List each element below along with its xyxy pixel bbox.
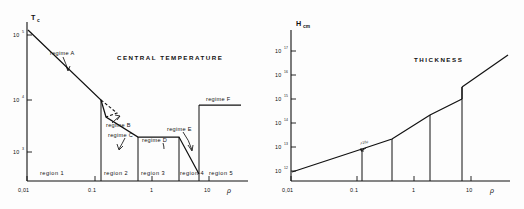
regime-label-a: regime A bbox=[50, 50, 74, 56]
y-tick-exponent-1e12: 12 bbox=[284, 166, 288, 170]
x-tick-label-0.1: 0.1 bbox=[350, 187, 358, 193]
region-label-5: region 5 bbox=[209, 170, 233, 176]
y-tick-label-1e12: 10 bbox=[275, 168, 281, 174]
thickness-annotation: ↗2δμ bbox=[359, 139, 369, 146]
y-tick-label-1e4: 10 bbox=[13, 97, 19, 103]
panel-thickness: H cm 10 17 10 16 10 15 10 14 10 13 10 12… bbox=[262, 0, 524, 209]
region-label-3: region 3 bbox=[141, 170, 165, 176]
regime-d-pointer bbox=[163, 143, 164, 149]
x-tick-label-0.01: 0,01 bbox=[282, 187, 293, 193]
y-axis-name: H bbox=[296, 19, 301, 28]
y-tick-label-1e13: 10 bbox=[275, 144, 281, 150]
y-axis-subscript: cm bbox=[303, 24, 310, 29]
x-tick-label-0.01: 0,01 bbox=[18, 187, 29, 193]
regime-label-e: regime E bbox=[167, 126, 192, 132]
x-tick-label-10: 10 bbox=[466, 187, 472, 193]
y-tick-exponent-1e13: 13 bbox=[284, 142, 288, 146]
y-tick-exponent-1e15: 15 bbox=[284, 94, 288, 98]
y-tick-label-1e16: 10 bbox=[275, 72, 281, 78]
y-tick-exponent-1e17: 17 bbox=[284, 46, 288, 50]
region-label-4: region 4 bbox=[180, 170, 204, 176]
thickness-upper-branch bbox=[462, 55, 508, 87]
regime-label-b: regime B bbox=[106, 122, 131, 128]
y-tick-exponent-1e5: 5 bbox=[22, 30, 24, 34]
x-tick-label-0.1: 0.1 bbox=[88, 187, 96, 193]
panel-central-temperature: T c 10 5 10 4 10 3 0,01 0.1 1 10 ρ CENTR… bbox=[0, 0, 262, 209]
y-tick-label-1e17: 10 bbox=[275, 48, 281, 54]
x-tick-label-1: 1 bbox=[150, 187, 153, 193]
figure-root: T c 10 5 10 4 10 3 0,01 0.1 1 10 ρ CENTR… bbox=[0, 0, 524, 209]
y-tick-label-1e3: 10 bbox=[13, 149, 19, 155]
region-label-1: region 1 bbox=[40, 170, 64, 176]
regime-label-f: regime F bbox=[206, 96, 231, 102]
panel-title: THICKNESS bbox=[414, 56, 463, 63]
y-tick-exponent-1e14: 14 bbox=[284, 118, 288, 122]
thickness-plot: H cm 10 17 10 16 10 15 10 14 10 13 10 12… bbox=[262, 0, 524, 209]
region-label-2: region 2 bbox=[104, 170, 128, 176]
y-tick-label-1e15: 10 bbox=[275, 96, 281, 102]
thickness-lower-branch bbox=[292, 99, 462, 172]
y-axis-subscript: c bbox=[37, 18, 40, 23]
x-tick-label-1: 1 bbox=[412, 187, 415, 193]
regime-label-c: regime C bbox=[108, 132, 133, 138]
x-tick-label-10: 10 bbox=[204, 187, 210, 193]
panel-title: CENTRAL TEMPERATURE bbox=[117, 54, 223, 61]
central-temperature-plot: T c 10 5 10 4 10 3 0,01 0.1 1 10 ρ CENTR… bbox=[0, 0, 262, 209]
x-axis-name: ρ bbox=[226, 187, 231, 195]
y-axis-name: T bbox=[31, 13, 36, 22]
regime-label-d: regime D bbox=[142, 137, 167, 143]
y-tick-exponent-1e4: 4 bbox=[22, 95, 24, 99]
y-tick-exponent-1e16: 16 bbox=[284, 70, 288, 74]
x-axis-name: ρ bbox=[489, 187, 494, 195]
y-tick-exponent-1e3: 3 bbox=[22, 147, 24, 151]
y-tick-label-1e5: 10 bbox=[13, 32, 19, 38]
y-tick-label-1e14: 10 bbox=[275, 120, 281, 126]
